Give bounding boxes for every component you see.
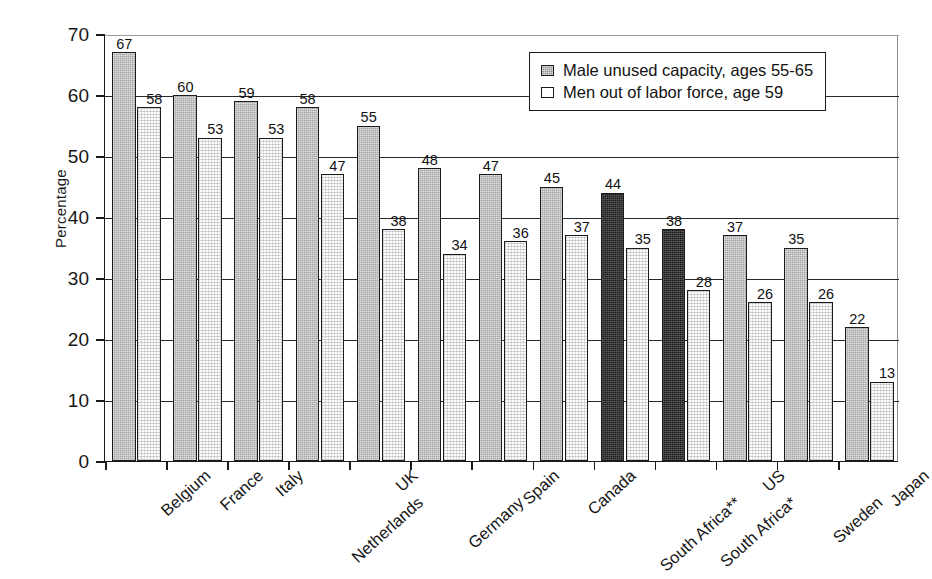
- bar-value-label: 60: [177, 80, 193, 95]
- bar-male-unused-capacity: 35: [784, 248, 808, 462]
- bar-male-unused-capacity: 60: [173, 95, 197, 461]
- x-axis-tick: [105, 461, 107, 470]
- bar-value-label: 34: [452, 238, 468, 253]
- legend-item-male-unused-capacity: Male unused capacity, ages 55-65: [541, 59, 813, 81]
- y-axis-tick-label: 10: [68, 390, 89, 412]
- bar-male-unused-capacity: 48: [418, 168, 442, 461]
- bar-men-out-of-labor-force: 26: [748, 302, 772, 461]
- bar-men-out-of-labor-force: 38: [382, 229, 406, 461]
- x-axis-tick: [533, 461, 535, 470]
- bar-value-label: 37: [574, 220, 590, 235]
- y-axis-tick: [96, 339, 105, 341]
- bar-value-label: 47: [483, 159, 499, 174]
- bar-male-unused-capacity: 59: [234, 101, 258, 461]
- bar-men-out-of-labor-force: 53: [198, 138, 222, 461]
- y-axis-tick: [96, 278, 105, 280]
- x-axis-category-label: UK: [392, 466, 422, 495]
- bar-men-out-of-labor-force: 53: [259, 138, 283, 461]
- y-axis-tick: [96, 95, 105, 97]
- y-axis-tick-label: 40: [68, 207, 89, 229]
- y-axis-tick: [96, 461, 105, 463]
- bar-male-unused-capacity: 47: [479, 174, 503, 461]
- legend-label-men-out-of-labor-force: Men out of labor force, age 59: [563, 83, 783, 102]
- x-axis-category-label: Italy: [272, 466, 307, 500]
- bar-value-label: 53: [268, 122, 284, 137]
- bar-men-out-of-labor-force: 58: [137, 107, 161, 461]
- y-axis-tick-label: 70: [68, 24, 89, 46]
- x-axis-category-label: US: [759, 466, 789, 495]
- x-axis-tick: [716, 461, 718, 470]
- bar-value-label: 48: [422, 153, 438, 168]
- bar-value-label: 35: [788, 232, 804, 247]
- y-axis-tick: [96, 156, 105, 158]
- bar-value-label: 58: [300, 92, 316, 107]
- bar-value-label: 47: [329, 159, 345, 174]
- bar-value-label: 22: [849, 312, 865, 327]
- bar-value-label: 67: [116, 37, 132, 52]
- chart-legend: Male unused capacity, ages 55-65 Men out…: [529, 52, 826, 111]
- bar-male-unused-capacity: 38: [662, 229, 686, 461]
- bar-value-label: 35: [635, 232, 651, 247]
- x-axis-tick: [227, 461, 229, 470]
- bar-value-label: 59: [238, 86, 254, 101]
- bar-value-label: 13: [879, 366, 895, 381]
- bar-male-unused-capacity: 55: [357, 126, 381, 462]
- x-axis-category-label: France: [216, 466, 267, 514]
- legend-swatch-icon-male-unused-capacity: [541, 65, 554, 76]
- legend-label-male-unused-capacity: Male unused capacity, ages 55-65: [563, 61, 813, 80]
- bar-value-label: 26: [757, 287, 773, 302]
- bar-value-label: 38: [666, 214, 682, 229]
- bar-men-out-of-labor-force: 47: [321, 174, 345, 461]
- bar-men-out-of-labor-force: 26: [809, 302, 833, 461]
- bar-value-label: 44: [605, 177, 621, 192]
- x-axis-category-label: Belgium: [157, 466, 214, 520]
- y-axis-tick-label: 0: [78, 451, 89, 473]
- legend-item-men-out-of-labor-force: Men out of labor force, age 59: [541, 81, 813, 103]
- y-axis-tick-label: 20: [68, 329, 89, 351]
- y-axis-title: Percentage: [52, 109, 69, 309]
- y-axis-tick: [96, 217, 105, 219]
- gridline: [105, 35, 899, 36]
- x-axis-tick: [166, 461, 168, 470]
- x-axis-category-label: Netherlands: [348, 493, 427, 567]
- bar-men-out-of-labor-force: 13: [870, 382, 894, 461]
- bar-value-label: 45: [544, 171, 560, 186]
- x-axis-category-label: Japan: [886, 466, 932, 510]
- bar-male-unused-capacity: 45: [540, 187, 564, 462]
- bar-value-label: 37: [727, 220, 743, 235]
- bar-value-label: 53: [207, 122, 223, 137]
- bar-value-label: 55: [361, 110, 377, 125]
- bar-male-unused-capacity: 67: [112, 52, 136, 461]
- gridline: [105, 157, 899, 158]
- y-axis-tick: [96, 34, 105, 36]
- x-axis-category-label: Sweden: [829, 493, 886, 547]
- x-axis-tick: [655, 461, 657, 470]
- bar-chart: Percentage 01020304050607067586053595358…: [0, 0, 932, 579]
- y-axis-tick: [96, 400, 105, 402]
- bar-value-label: 26: [818, 287, 834, 302]
- y-axis-tick-label: 60: [68, 85, 89, 107]
- x-axis-tick: [838, 461, 840, 470]
- x-axis-tick: [349, 461, 351, 470]
- y-axis-tick-label: 50: [68, 146, 89, 168]
- bar-men-out-of-labor-force: 37: [565, 235, 589, 461]
- bar-men-out-of-labor-force: 36: [504, 241, 528, 461]
- bar-value-label: 58: [146, 92, 162, 107]
- x-axis-category-label: Germany: [465, 493, 528, 553]
- x-axis-tick: [471, 461, 473, 470]
- bar-men-out-of-labor-force: 28: [687, 290, 711, 461]
- x-axis-category-label: Spain: [519, 466, 563, 508]
- bar-male-unused-capacity: 22: [845, 327, 869, 461]
- y-axis-tick-label: 30: [68, 268, 89, 290]
- x-axis-category-label: Canada: [584, 466, 640, 519]
- x-axis-tick: [594, 461, 596, 470]
- bar-value-label: 36: [513, 226, 529, 241]
- bar-male-unused-capacity: 44: [601, 193, 625, 461]
- bar-men-out-of-labor-force: 35: [626, 248, 650, 462]
- legend-swatch-icon-men-out-of-labor-force: [541, 87, 554, 98]
- bar-value-label: 38: [390, 214, 406, 229]
- bar-men-out-of-labor-force: 34: [443, 254, 467, 461]
- bar-male-unused-capacity: 58: [296, 107, 320, 461]
- bar-value-label: 28: [696, 275, 712, 290]
- bar-male-unused-capacity: 37: [723, 235, 747, 461]
